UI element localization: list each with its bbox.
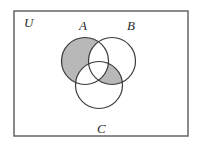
set-label-a: A bbox=[78, 18, 87, 33]
venn-diagram-figure: U A B C bbox=[0, 0, 202, 147]
universal-set-label: U bbox=[24, 15, 35, 30]
venn-diagram-canvas: U A B C bbox=[0, 0, 202, 147]
set-label-c: C bbox=[97, 121, 106, 136]
set-label-b: B bbox=[127, 18, 135, 33]
